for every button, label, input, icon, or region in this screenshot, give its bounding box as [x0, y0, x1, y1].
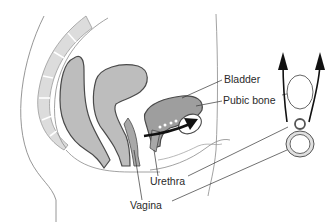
schematic-arrowhead-left — [278, 52, 288, 70]
label-pubic-bone: Pubic bone — [223, 95, 276, 106]
abdominal-wall — [208, 14, 218, 196]
schematic-arrow-left — [283, 62, 287, 122]
schematic-vagina-ring-inner — [290, 135, 310, 154]
label-bladder: Bladder — [224, 74, 260, 85]
labia-line — [158, 144, 222, 160]
schematic-pubic-bone — [287, 75, 313, 109]
schematic-arrowhead-right — [315, 52, 325, 70]
label-vagina: Vagina — [130, 200, 162, 211]
perineum-line — [150, 139, 230, 170]
peritoneal-line-2 — [66, 150, 160, 172]
anatomy-diagram — [0, 0, 336, 224]
label-urethra: Urethra — [150, 176, 185, 187]
schematic-urethra-ring — [295, 119, 305, 129]
